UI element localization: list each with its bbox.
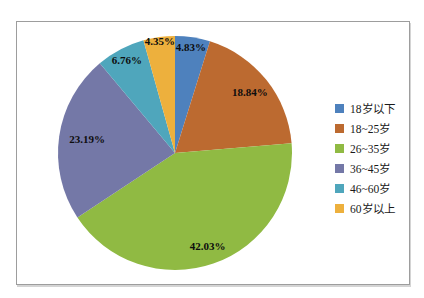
legend-item: 36~45岁 (335, 158, 395, 178)
legend-item-label: 18岁以下 (350, 100, 395, 116)
legend-item: 46~60岁 (335, 178, 395, 198)
legend-item: 26~35岁 (335, 138, 395, 158)
legend-item: 60岁以上 (335, 198, 395, 218)
legend: 18岁以下 18~25岁 26~35岁 36~45岁 46~60岁 60岁以上 (335, 98, 395, 218)
page: 4.83%18.84%42.03%23.19%6.76%4.35% 18岁以下 … (0, 0, 424, 298)
pie-percent-label-0: 4.83% (176, 41, 206, 53)
legend-swatch-icon (335, 104, 344, 113)
pie-percent-label-2: 42.03% (190, 240, 226, 252)
legend-item: 18岁以下 (335, 98, 395, 118)
pie-percent-label-3: 23.19% (69, 133, 105, 145)
legend-item-label: 18~25岁 (350, 120, 390, 136)
chart-frame: 4.83%18.84%42.03%23.19%6.76%4.35% 18岁以下 … (16, 21, 410, 285)
pie-percent-label-1: 18.84% (232, 86, 268, 98)
legend-item-label: 60岁以上 (350, 200, 395, 216)
legend-swatch-icon (335, 164, 344, 173)
legend-item-label: 46~60岁 (350, 180, 390, 196)
legend-swatch-icon (335, 144, 344, 153)
pie-percent-label-5: 4.35% (145, 35, 175, 47)
legend-swatch-icon (335, 184, 344, 193)
legend-swatch-icon (335, 204, 344, 213)
legend-swatch-icon (335, 124, 344, 133)
pie-percent-label-4: 6.76% (112, 54, 142, 66)
legend-item-label: 26~35岁 (350, 140, 390, 156)
legend-item-label: 36~45岁 (350, 160, 390, 176)
legend-item: 18~25岁 (335, 118, 395, 138)
